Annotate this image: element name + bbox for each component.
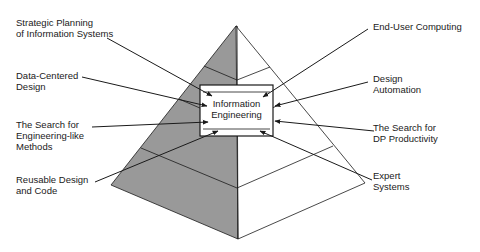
label-line: Methods <box>16 141 84 152</box>
label-line: Engineering-like <box>16 130 84 141</box>
label-line: Design <box>16 81 78 92</box>
label-line: The Search for <box>16 119 84 130</box>
label-line: and Code <box>16 185 88 196</box>
label-design-automation: Design Automation <box>373 73 421 95</box>
center-label: Information Engineering <box>200 98 273 120</box>
label-line: of Information Systems <box>16 28 113 39</box>
label-data-centered-design: Data-Centered Design <box>16 70 78 92</box>
label-engineering-like-methods: The Search for Engineering-like Methods <box>16 119 84 152</box>
label-line: Automation <box>373 84 421 95</box>
label-line: Systems <box>373 181 409 192</box>
label-line: Strategic Planning <box>16 17 113 28</box>
label-expert-systems: Expert Systems <box>373 170 409 192</box>
label-end-user-computing: End-User Computing <box>373 21 462 32</box>
center-label-line2: Engineering <box>200 109 273 120</box>
label-line: Reusable Design <box>16 174 88 185</box>
label-strategic-planning: Strategic Planning of Information System… <box>16 17 113 39</box>
center-label-line1: Information <box>200 98 273 109</box>
label-dp-productivity: The Search for DP Productivity <box>373 122 438 144</box>
label-line: Data-Centered <box>16 70 78 81</box>
label-line: Design <box>373 73 421 84</box>
label-line: DP Productivity <box>373 133 438 144</box>
label-line: The Search for <box>373 122 438 133</box>
label-line: Expert <box>373 170 409 181</box>
label-line: End-User Computing <box>373 21 462 32</box>
label-reusable-design: Reusable Design and Code <box>16 174 88 196</box>
